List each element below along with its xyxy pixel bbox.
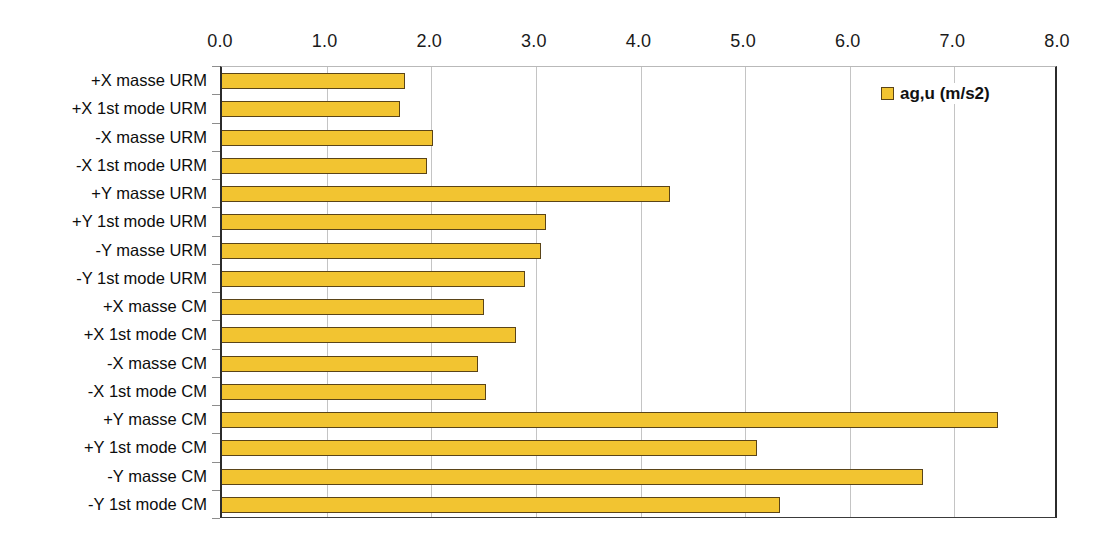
bar xyxy=(222,299,484,315)
category-label: +Y 1st mode CM xyxy=(0,433,214,461)
bar-row xyxy=(222,384,1055,400)
bar-series-ag-u xyxy=(222,67,1055,517)
y-axis-tick-marks xyxy=(212,66,220,518)
x-tick-label: 8.0 xyxy=(1044,30,1070,52)
bar xyxy=(222,243,541,259)
bar-row xyxy=(222,271,1055,287)
y-tick-mark xyxy=(212,207,220,208)
category-label: +X masse CM xyxy=(0,292,214,320)
category-label: +Y masse URM xyxy=(0,179,214,207)
x-axis-tick-labels: 0.01.02.03.04.05.06.07.08.0 xyxy=(220,30,1057,54)
plot-area xyxy=(220,66,1057,518)
category-label: -Y masse URM xyxy=(0,236,214,264)
bar-row xyxy=(222,440,1055,456)
bar-row xyxy=(222,469,1055,485)
bar xyxy=(222,440,757,456)
category-label: -Y masse CM xyxy=(0,462,214,490)
y-tick-mark xyxy=(212,264,220,265)
bar-row xyxy=(222,356,1055,372)
bar xyxy=(222,497,780,513)
bar-row xyxy=(222,497,1055,513)
y-tick-mark xyxy=(212,433,220,434)
bar-chart: 0.01.02.03.04.05.06.07.08.0 +X masse URM… xyxy=(0,0,1096,548)
bar xyxy=(222,327,516,343)
bar xyxy=(222,158,427,174)
y-tick-mark xyxy=(212,292,220,293)
bar xyxy=(222,130,433,146)
legend: ag,u (m/s2) xyxy=(878,83,993,104)
category-label: -X 1st mode URM xyxy=(0,151,214,179)
y-tick-mark xyxy=(212,66,220,67)
y-tick-mark xyxy=(212,151,220,152)
bar xyxy=(222,469,923,485)
x-tick-label: 0.0 xyxy=(207,30,233,52)
bar-row xyxy=(222,130,1055,146)
x-tick-label: 7.0 xyxy=(940,30,966,52)
x-tick-label: 1.0 xyxy=(312,30,338,52)
category-label: -X masse CM xyxy=(0,349,214,377)
y-axis-category-labels: +X masse URM+X 1st mode URM-X masse URM-… xyxy=(0,66,214,518)
bar-row xyxy=(222,412,1055,428)
y-tick-mark xyxy=(212,405,220,406)
category-label: +Y 1st mode URM xyxy=(0,207,214,235)
y-tick-mark xyxy=(212,518,220,519)
y-tick-mark xyxy=(212,377,220,378)
y-tick-mark xyxy=(212,179,220,180)
y-tick-mark xyxy=(212,94,220,95)
bar xyxy=(222,271,525,287)
category-label: +X masse URM xyxy=(0,66,214,94)
bar xyxy=(222,412,998,428)
bar xyxy=(222,73,405,89)
bar xyxy=(222,101,400,117)
y-tick-mark xyxy=(212,462,220,463)
category-label: -Y 1st mode CM xyxy=(0,490,214,518)
y-tick-mark xyxy=(212,320,220,321)
bar-row xyxy=(222,214,1055,230)
bar xyxy=(222,356,478,372)
y-tick-mark xyxy=(212,349,220,350)
category-label: -X 1st mode CM xyxy=(0,377,214,405)
x-tick-label: 6.0 xyxy=(835,30,861,52)
category-label: +X 1st mode CM xyxy=(0,320,214,348)
legend-label: ag,u (m/s2) xyxy=(900,84,990,103)
category-label: -X masse URM xyxy=(0,123,214,151)
bar-row xyxy=(222,327,1055,343)
category-label: +Y masse CM xyxy=(0,405,214,433)
x-tick-label: 3.0 xyxy=(521,30,547,52)
y-tick-mark xyxy=(212,490,220,491)
x-tick-label: 5.0 xyxy=(730,30,756,52)
bar xyxy=(222,186,670,202)
legend-swatch-icon xyxy=(881,87,894,100)
y-tick-mark xyxy=(212,236,220,237)
y-tick-mark xyxy=(212,123,220,124)
bar-row xyxy=(222,158,1055,174)
category-label: +X 1st mode URM xyxy=(0,94,214,122)
bar-row xyxy=(222,299,1055,315)
category-label: -Y 1st mode URM xyxy=(0,264,214,292)
bar xyxy=(222,214,546,230)
x-tick-label: 4.0 xyxy=(626,30,652,52)
x-tick-label: 2.0 xyxy=(416,30,442,52)
bar-row xyxy=(222,243,1055,259)
bar xyxy=(222,384,486,400)
bar-row xyxy=(222,186,1055,202)
